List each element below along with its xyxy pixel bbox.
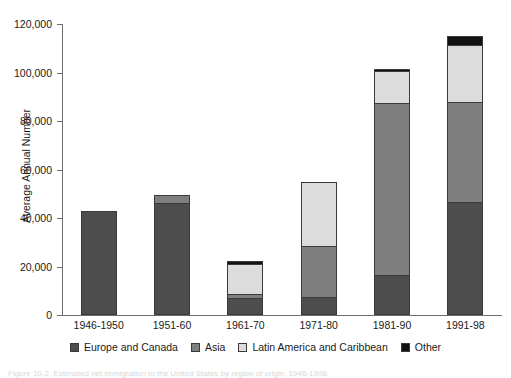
y-tick-label: 80,000 (0, 116, 52, 126)
bar-segment-asia (154, 195, 190, 204)
figure-caption: Figure 10-2. Estimated net immigration t… (8, 369, 508, 378)
legend-label: Asia (205, 341, 225, 353)
y-tick-label: 20,000 (0, 262, 52, 272)
y-tick-label: 60,000 (0, 165, 52, 175)
bar-segment-europe-and-canada (301, 297, 337, 315)
legend-label: Latin America and Caribbean (252, 341, 387, 353)
legend-item: Other (401, 341, 441, 353)
bar-stack (447, 37, 483, 315)
bar-stack (301, 183, 337, 315)
x-axis-line (62, 315, 502, 316)
y-tick-label: 120,000 (0, 19, 52, 29)
legend-swatch-icon (191, 343, 200, 352)
bar-segment-latin-america-and-caribbean (227, 264, 263, 295)
y-tick-label: 0 (0, 310, 52, 320)
legend-item: Europe and Canada (70, 341, 178, 353)
bar-segment-europe-and-canada (81, 211, 117, 315)
bar-segment-latin-america-and-caribbean (447, 45, 483, 103)
bar-segment-asia (447, 102, 483, 202)
chart-legend: Europe and CanadaAsiaLatin America and C… (0, 341, 511, 353)
bar-segment-europe-and-canada (374, 275, 410, 315)
y-tick-label: 40,000 (0, 213, 52, 223)
legend-swatch-icon (401, 343, 410, 352)
y-tick-mark (57, 315, 63, 316)
bar-segment-europe-and-canada (154, 203, 190, 315)
bar-stack (374, 70, 410, 315)
plot-area (62, 24, 502, 315)
bar-segment-latin-america-and-caribbean (301, 182, 337, 247)
y-tick-label: 100,000 (0, 68, 52, 78)
bar-stack (81, 212, 117, 315)
figure-stacked-bar-chart: Average Annual Number 020,00040,00060,00… (0, 0, 511, 378)
bar-1951-60 (154, 24, 190, 315)
bar-segment-other (227, 261, 263, 265)
bar-segment-latin-america-and-caribbean (374, 71, 410, 104)
legend-item: Asia (191, 341, 225, 353)
bar-1991-98 (447, 24, 483, 315)
x-tick-label: 1991-98 (415, 319, 511, 331)
bar-1981-90 (374, 24, 410, 315)
legend-label: Other (415, 341, 441, 353)
legend-swatch-icon (238, 343, 247, 352)
bar-segment-other (447, 36, 483, 45)
legend-swatch-icon (70, 343, 79, 352)
bar-segment-other (374, 69, 410, 72)
legend-label: Europe and Canada (84, 341, 178, 353)
bar-1946-1950 (81, 24, 117, 315)
bar-segment-europe-and-canada (447, 202, 483, 315)
bar-1961-70 (227, 24, 263, 315)
bar-1971-80 (301, 24, 337, 315)
bar-segment-asia (301, 246, 337, 297)
bar-segment-europe-and-canada (227, 298, 263, 315)
bar-segment-asia (374, 103, 410, 276)
legend-item: Latin America and Caribbean (238, 341, 387, 353)
bar-stack (154, 196, 190, 315)
bar-stack (227, 262, 263, 315)
